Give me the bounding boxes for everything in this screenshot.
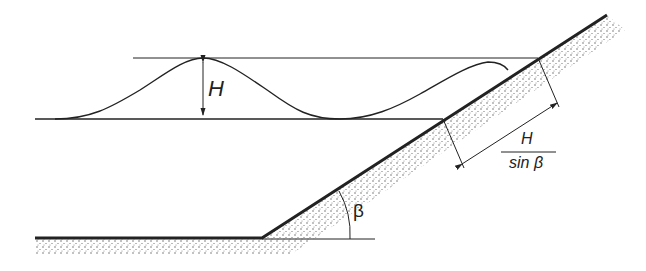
fraction-denominator-label: sin β: [509, 154, 543, 172]
ground-fill: [35, 15, 625, 255]
wave-height-label: H: [208, 76, 224, 102]
fraction-numerator-label: H: [521, 130, 533, 148]
wave-slope-diagram: [0, 0, 646, 271]
diagram-canvas: H H sin β β: [0, 0, 646, 271]
wave-profile: [55, 58, 508, 119]
slope-angle-label: β: [353, 200, 364, 222]
